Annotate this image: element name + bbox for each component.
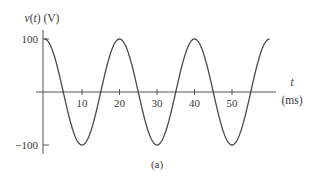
x-tick-label: 50 (227, 97, 239, 109)
y-tick-label: 100 (22, 33, 39, 45)
x-tick-label: 40 (189, 97, 201, 109)
x-tick-label: 30 (152, 97, 164, 109)
x-axis-unit: (ms) (281, 94, 302, 107)
axes (36, 30, 276, 154)
y-label-unit: (V) (43, 12, 59, 25)
chart: 1020304050 100−100 v(t) (V) t (ms) (a) (0, 0, 315, 187)
y-tick-label: −100 (15, 139, 38, 151)
figure-caption: (a) (151, 158, 164, 171)
x-axis-label: t (290, 76, 294, 88)
x-tick-label: 10 (77, 97, 89, 109)
x-tick-label: 20 (114, 97, 126, 109)
y-axis-label: v(t) (V) (25, 12, 60, 25)
